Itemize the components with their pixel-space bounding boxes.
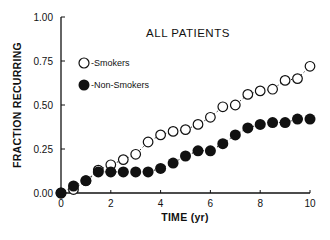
filled-circle-marker [180, 151, 191, 162]
chart-title: ALL PATIENTS [146, 27, 230, 39]
axes: 0.000.250.500.751.000246810 [34, 12, 316, 210]
x-tick-label: 10 [304, 198, 316, 209]
filled-circle-marker [93, 166, 104, 177]
filled-circle-marker [105, 166, 116, 177]
filled-circle-marker [118, 166, 129, 177]
filled-circle-marker [80, 175, 91, 186]
filled-circle-marker [193, 145, 204, 156]
y-axis-title: FRACTION RECURRING [11, 42, 23, 168]
open-circle-marker [193, 120, 203, 130]
open-circle-marker [231, 100, 241, 110]
y-tick-label: 1.00 [34, 12, 54, 23]
open-circle-marker [119, 155, 129, 165]
filled-circle-marker [68, 181, 79, 192]
open-circle-marker [143, 137, 153, 147]
open-circle-marker [156, 130, 166, 140]
filled-circle-marker [305, 114, 316, 125]
filled-circle-marker [280, 117, 291, 128]
legend-label-non-smokers: -Non-Smokers [91, 80, 150, 90]
filled-circle-marker [267, 117, 278, 128]
filled-circle-marker [230, 129, 241, 140]
open-circle-marker [131, 150, 141, 160]
filled-circle-marker [292, 114, 303, 125]
x-axis-title: TIME (yr) [161, 211, 209, 223]
legend: -Smokers -Non-Smokers [79, 58, 150, 91]
y-tick-label: 0.75 [34, 56, 54, 67]
open-circle-marker [268, 84, 278, 94]
filled-circle-marker [130, 166, 141, 177]
filled-circle-marker [143, 166, 154, 177]
filled-circle-marker [217, 138, 228, 149]
open-circle-marker [206, 113, 216, 123]
x-tick-label: 2 [108, 198, 114, 209]
open-circle-icon [79, 58, 89, 68]
filled-circle-marker [255, 119, 266, 130]
filled-circle-marker [155, 163, 166, 174]
filled-circle-marker [242, 122, 253, 133]
filled-circle-marker [168, 158, 179, 169]
open-circle-marker [218, 102, 228, 112]
open-circle-marker [181, 125, 191, 135]
filled-circle-marker [56, 188, 67, 199]
y-tick-label: 0.25 [34, 144, 54, 155]
legend-label-smokers: -Smokers [91, 58, 130, 68]
open-circle-marker [280, 76, 290, 86]
x-tick-label: 8 [257, 198, 263, 209]
open-circle-marker [305, 62, 315, 72]
open-circle-marker [293, 74, 303, 84]
line-chart: 0.000.250.500.751.000246810 ALL PATIENTS… [0, 0, 330, 240]
open-circle-marker [243, 90, 253, 100]
filled-circle-icon [79, 80, 90, 91]
x-tick-label: 6 [208, 198, 214, 209]
open-circle-marker [255, 86, 265, 96]
y-tick-label: 0.00 [34, 188, 54, 199]
y-tick-label: 0.50 [34, 100, 54, 111]
x-tick-label: 4 [158, 198, 164, 209]
x-tick-label: 0 [58, 198, 64, 209]
filled-circle-marker [205, 145, 216, 156]
open-circle-marker [168, 127, 178, 137]
